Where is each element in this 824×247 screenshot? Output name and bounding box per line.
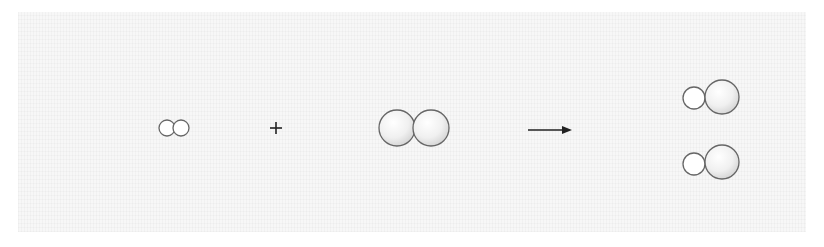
small-atom-icon (173, 120, 189, 136)
large-atom-icon (379, 110, 415, 146)
reaction-diagram (0, 0, 824, 247)
small-atom-icon (683, 87, 705, 109)
plus-icon (270, 122, 282, 134)
large-atom-icon (413, 110, 449, 146)
small-diatomic-molecule (159, 120, 189, 136)
large-atom-icon (705, 145, 739, 179)
product-molecule-2 (683, 145, 739, 179)
product-molecule-1 (683, 80, 739, 114)
large-diatomic-molecule (379, 110, 449, 146)
small-atom-icon (683, 153, 705, 175)
large-atom-icon (705, 80, 739, 114)
reaction-arrow-icon (528, 126, 572, 134)
